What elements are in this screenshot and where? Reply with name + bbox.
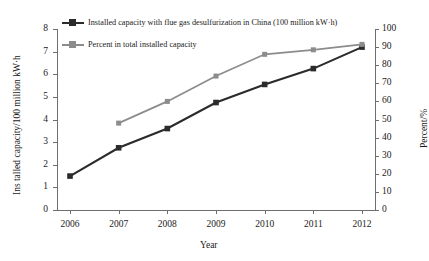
y-tick-mark: [53, 187, 57, 188]
y-tick-mark: [53, 120, 57, 121]
x-tick-label: 2008: [147, 220, 187, 230]
x-tick-mark: [119, 210, 120, 214]
y-axis-left: [57, 29, 58, 211]
y-tick-label: 8: [32, 24, 48, 34]
y2-tick-label: 70: [382, 78, 404, 88]
y-tick-mark: [53, 74, 57, 75]
y-tick-label: 6: [32, 69, 48, 79]
y2-tick-mark: [375, 138, 379, 139]
chart-container: 012345678 0102030405060708090100 2006200…: [0, 0, 429, 261]
y-tick-label: 5: [32, 92, 48, 102]
x-tick-label: 2006: [50, 220, 90, 230]
y2-tick-label: 30: [382, 151, 404, 161]
data-point-marker: [311, 66, 317, 72]
y2-tick-mark: [375, 120, 379, 121]
x-tick-mark: [313, 210, 314, 214]
x-tick-label: 2011: [293, 220, 333, 230]
legend-label-1: Percent in total installed capacity: [88, 40, 197, 49]
series-line-1: [119, 44, 362, 123]
legend-marker-0: [69, 19, 76, 26]
y2-tick-label: 0: [382, 205, 404, 215]
legend-line-0: [62, 22, 84, 24]
y-axis-left-title: Ins talled capacity/100 million kW·h: [12, 55, 22, 195]
x-tick-label: 2009: [196, 220, 236, 230]
y2-tick-label: 80: [382, 60, 404, 70]
data-point-marker: [213, 100, 219, 106]
y-tick-label: 3: [32, 137, 48, 147]
legend-item-1: Percent in total installed capacity: [62, 40, 197, 49]
data-point-marker: [165, 126, 171, 132]
legend-line-1: [62, 44, 84, 46]
x-tick-mark: [167, 210, 168, 214]
y-tick-mark: [53, 142, 57, 143]
y-tick-mark: [53, 52, 57, 53]
legend-item-0: Installed capacity with flue gas desulfu…: [62, 18, 337, 27]
x-axis-title: Year: [200, 240, 218, 250]
data-point-marker: [311, 47, 316, 52]
series-line-0: [70, 47, 362, 176]
data-point-marker: [359, 44, 365, 50]
data-point-marker: [116, 121, 121, 126]
y2-tick-mark: [375, 174, 379, 175]
y2-tick-label: 100: [382, 24, 404, 34]
y2-tick-mark: [375, 29, 379, 30]
y-tick-label: 0: [32, 205, 48, 215]
y2-tick-mark: [375, 210, 379, 211]
data-point-marker: [165, 99, 170, 104]
y2-tick-label: 40: [382, 133, 404, 143]
y-tick-label: 4: [32, 115, 48, 125]
x-tick-mark: [265, 210, 266, 214]
legend-marker-1: [69, 41, 76, 48]
y2-tick-mark: [375, 83, 379, 84]
y-tick-mark: [53, 97, 57, 98]
y-tick-label: 2: [32, 160, 48, 170]
y2-tick-label: 60: [382, 96, 404, 106]
data-point-marker: [262, 52, 267, 57]
y2-tick-label: 20: [382, 169, 404, 179]
y2-tick-label: 10: [382, 187, 404, 197]
y2-tick-mark: [375, 156, 379, 157]
y2-tick-mark: [375, 192, 379, 193]
y2-tick-label: 90: [382, 42, 404, 52]
x-tick-label: 2012: [342, 220, 382, 230]
y2-tick-mark: [375, 101, 379, 102]
y-axis-right-title: Percent/%: [419, 109, 429, 148]
y2-tick-mark: [375, 65, 379, 66]
y-tick-label: 7: [32, 47, 48, 57]
data-point-marker: [360, 42, 365, 47]
y2-tick-label: 50: [382, 115, 404, 125]
x-tick-label: 2007: [99, 220, 139, 230]
data-point-marker: [116, 145, 122, 151]
x-tick-mark: [216, 210, 217, 214]
data-point-marker: [67, 173, 73, 179]
y-tick-mark: [53, 165, 57, 166]
data-point-marker: [214, 74, 219, 79]
y-tick-mark: [53, 210, 57, 211]
y-tick-mark: [53, 29, 57, 30]
x-tick-mark: [70, 210, 71, 214]
data-point-marker: [262, 82, 268, 88]
legend-label-0: Installed capacity with flue gas desulfu…: [88, 18, 337, 27]
y-tick-label: 1: [32, 182, 48, 192]
x-tick-label: 2010: [245, 220, 285, 230]
x-tick-mark: [362, 210, 363, 214]
y2-tick-mark: [375, 47, 379, 48]
